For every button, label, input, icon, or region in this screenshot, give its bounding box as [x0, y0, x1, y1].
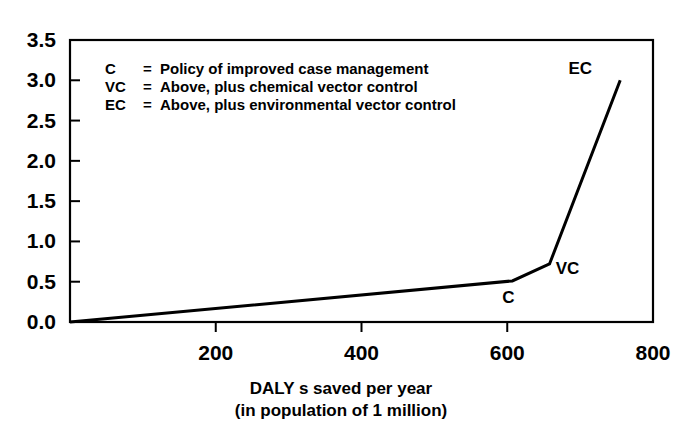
x-axis-title-line2: (in population of 1 million) [235, 401, 447, 420]
y-tick-label: 2.0 [27, 149, 56, 172]
legend-key-2: EC [105, 96, 126, 113]
point-label-c: C [502, 288, 514, 307]
y-axis-tick-labels: 0.00.51.01.52.02.53.03.5 [27, 28, 57, 333]
legend-sep-2: = [143, 96, 152, 113]
x-tick-label: 400 [344, 341, 379, 364]
y-tick-label: 2.5 [27, 109, 57, 132]
y-tick-label: 3.5 [27, 28, 57, 51]
line-chart: 0.00.51.01.52.02.53.03.5 200400600800 CV… [0, 0, 683, 441]
legend-sep-1: = [143, 78, 152, 95]
x-axis-ticks [216, 322, 508, 332]
y-tick-label: 1.5 [27, 189, 57, 212]
legend-key-1: VC [105, 78, 126, 95]
point-label-vc: VC [556, 259, 580, 278]
chart-container: 0.00.51.01.52.02.53.03.5 200400600800 CV… [0, 0, 683, 441]
x-tick-label: 200 [198, 341, 233, 364]
x-axis-title-line1: DALY s saved per year [250, 379, 433, 398]
y-tick-label: 1.0 [27, 229, 56, 252]
x-tick-label: 600 [490, 341, 525, 364]
y-tick-label: 0.5 [27, 270, 57, 293]
legend-key-0: C [105, 60, 116, 77]
point-label-ec: EC [568, 59, 592, 78]
legend-text-1: Above, plus chemical vector control [160, 78, 418, 95]
y-tick-label: 0.0 [27, 310, 56, 333]
legend-text-2: Above, plus environmental vector control [160, 96, 456, 113]
x-tick-label: 800 [635, 341, 670, 364]
x-axis-tick-labels: 200400600800 [198, 341, 670, 364]
legend-text-0: Policy of improved case management [160, 60, 428, 77]
legend-sep-0: = [143, 60, 152, 77]
y-tick-label: 3.0 [27, 68, 56, 91]
